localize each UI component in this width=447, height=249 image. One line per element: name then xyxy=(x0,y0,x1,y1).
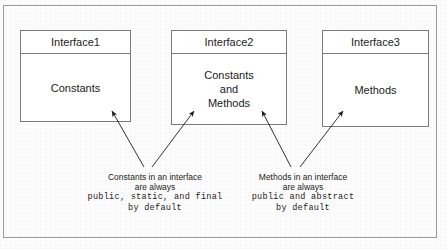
constants-note-line: Constants in an interface xyxy=(75,172,235,182)
interface3-body-line: Methods xyxy=(354,83,396,97)
interface3-body: Methods xyxy=(323,54,428,126)
interface-box-interface3: Interface3 Methods xyxy=(322,30,429,127)
interface3-header: Interface3 xyxy=(323,31,428,54)
methods-note-line: by default xyxy=(228,203,378,214)
interface1-header: Interface1 xyxy=(21,31,130,54)
interface2-body-line: Methods xyxy=(208,96,250,110)
caption-constants-note: Constants in an interface are always pub… xyxy=(75,172,235,214)
constants-note-line: public, static, and final xyxy=(75,192,235,203)
diagram-canvas: Interface1 Constants Interface2 Constant… xyxy=(0,0,447,249)
interface-box-interface1: Interface1 Constants xyxy=(20,30,131,122)
constants-note-line: are always xyxy=(75,182,235,192)
interface-box-interface2: Interface2 Constants and Methods xyxy=(171,30,287,125)
methods-note-line: are always xyxy=(228,182,378,192)
interface2-body: Constants and Methods xyxy=(172,54,286,124)
interface2-body-line: Constants xyxy=(204,68,254,82)
interface2-body-line: and xyxy=(220,82,238,96)
interface1-body: Constants xyxy=(21,54,130,121)
constants-note-line: by default xyxy=(75,203,235,214)
interface1-body-line: Constants xyxy=(51,81,101,95)
interface2-header: Interface2 xyxy=(172,31,286,54)
caption-methods-note: Methods in an interface are always publi… xyxy=(228,172,378,214)
methods-note-line: Methods in an interface xyxy=(228,172,378,182)
methods-note-line: public and abstract xyxy=(228,192,378,203)
